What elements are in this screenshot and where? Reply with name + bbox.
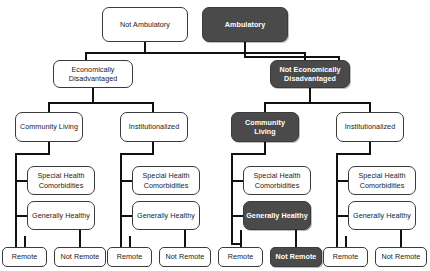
- connector-g3-leaf-remote: [240, 230, 242, 247]
- node-generally-healthy-3-label: Generally Healthy: [244, 211, 310, 220]
- node-not-economically-disadvantaged-label: Not Economically Disadvantaged: [271, 65, 349, 84]
- node-special-health-comorbidities-4-label: Special Health Comorbidities: [349, 171, 415, 190]
- leaf-remote-3-label: Remote: [226, 252, 255, 261]
- leaf-remote-1[interactable]: Remote: [2, 247, 47, 267]
- connector-g2-leaf-remote: [129, 236, 131, 247]
- leaf-remote-2[interactable]: Remote: [107, 247, 152, 267]
- connector-root-left-drop-1: [85, 52, 87, 60]
- node-generally-healthy-1-label: Generally Healthy: [30, 211, 92, 220]
- node-institutionalized-1-label: Institutionalized: [127, 122, 181, 131]
- leaf-not-remote-4[interactable]: Not Remote: [375, 247, 427, 267]
- leaf-remote-4-label: Remote: [331, 252, 360, 261]
- connector-econ-right-stem: [309, 88, 311, 103]
- leaf-not-remote-2[interactable]: Not Remote: [159, 247, 211, 267]
- node-community-living-2-label: Community Living: [232, 118, 298, 137]
- connector-g1-leaf-remote: [24, 236, 26, 247]
- connector-g3-trunk: [231, 153, 233, 245]
- connector-econ-right-bar: [264, 102, 371, 104]
- leaf-not-remote-3-label: Not Remote: [274, 252, 319, 261]
- connector-g4-trunk: [336, 153, 338, 251]
- connector-g3-top: [231, 153, 266, 155]
- leaf-remote-4[interactable]: Remote: [323, 247, 368, 267]
- node-community-living-2[interactable]: Community Living: [231, 112, 299, 142]
- leaf-not-remote-3[interactable]: Not Remote: [270, 247, 322, 267]
- connector-g1-leaf-not-remote: [79, 230, 81, 247]
- connector-g2-top: [120, 153, 154, 155]
- connector-g4-top: [336, 153, 371, 155]
- connector-econ-left-stem: [92, 88, 94, 103]
- node-community-living-1[interactable]: Community Living: [15, 112, 83, 142]
- connector-root-right-stem: [244, 42, 246, 57]
- connector-g4-leaf-not-remote: [400, 230, 402, 247]
- node-not-ambulatory-label: Not Ambulatory: [118, 20, 172, 29]
- node-economically-disadvantaged[interactable]: Economically Disadvantaged: [53, 60, 133, 88]
- node-special-health-comorbidities-4[interactable]: Special Health Comorbidities: [348, 166, 416, 195]
- leaf-not-remote-1-label: Not Remote: [59, 252, 102, 261]
- node-economically-disadvantaged-label: Economically Disadvantaged: [54, 65, 132, 84]
- node-generally-healthy-4-label: Generally Healthy: [351, 211, 413, 220]
- leaf-remote-1-label: Remote: [10, 252, 39, 261]
- node-generally-healthy-4[interactable]: Generally Healthy: [348, 201, 416, 230]
- connector-g1-trunk: [15, 153, 17, 251]
- connector-g1-top: [15, 153, 50, 155]
- node-ambulatory[interactable]: Ambulatory: [202, 7, 288, 42]
- node-community-living-1-label: Community Living: [18, 122, 80, 131]
- connector-root-left-bar: [85, 52, 306, 54]
- leaf-not-remote-1[interactable]: Not Remote: [54, 247, 106, 267]
- connector-g4-leaf-remote: [345, 236, 347, 247]
- node-institutionalized-2-label: Institutionalized: [343, 122, 397, 131]
- connector-g3-leaf-not-remote: [295, 230, 297, 247]
- node-special-health-comorbidities-2[interactable]: Special Health Comorbidities: [132, 166, 200, 195]
- leaf-remote-3[interactable]: Remote: [218, 247, 263, 267]
- connector-g2-trunk: [120, 153, 122, 251]
- leaf-not-remote-4-label: Not Remote: [380, 252, 423, 261]
- node-generally-healthy-1[interactable]: Generally Healthy: [27, 201, 95, 230]
- node-institutionalized-1[interactable]: Institutionalized: [120, 112, 188, 142]
- connector-root-right-bar: [244, 56, 340, 58]
- decision-tree-diagram: Not Ambulatory Ambulatory Economically D…: [0, 0, 430, 271]
- node-not-ambulatory[interactable]: Not Ambulatory: [102, 7, 188, 42]
- node-generally-healthy-2[interactable]: Generally Healthy: [132, 201, 200, 230]
- node-special-health-comorbidities-1-label: Special Health Comorbidities: [28, 171, 94, 190]
- node-special-health-comorbidities-3[interactable]: Special Health Comorbidities: [243, 166, 311, 195]
- node-ambulatory-label: Ambulatory: [223, 20, 267, 29]
- node-special-health-comorbidities-1[interactable]: Special Health Comorbidities: [27, 166, 95, 195]
- node-special-health-comorbidities-2-label: Special Health Comorbidities: [133, 171, 199, 190]
- connector-g2-leaf-not-remote: [184, 230, 186, 247]
- leaf-remote-2-label: Remote: [115, 252, 144, 261]
- node-generally-healthy-3[interactable]: Generally Healthy: [243, 201, 311, 230]
- node-institutionalized-2[interactable]: Institutionalized: [336, 112, 404, 142]
- node-special-health-comorbidities-3-label: Special Health Comorbidities: [244, 171, 310, 190]
- connector-econ-left-bar: [48, 102, 154, 104]
- leaf-not-remote-2-label: Not Remote: [164, 252, 207, 261]
- node-generally-healthy-2-label: Generally Healthy: [135, 211, 197, 220]
- node-not-economically-disadvantaged[interactable]: Not Economically Disadvantaged: [270, 60, 350, 88]
